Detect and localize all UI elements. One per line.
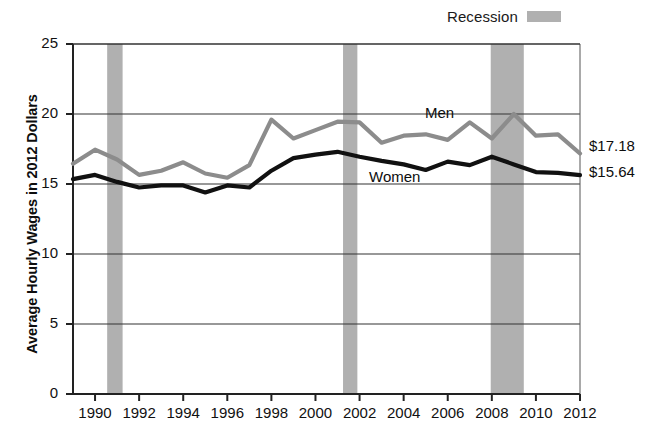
x-tick-label-2012: 2012 — [557, 404, 603, 421]
x-tick-label-1998: 1998 — [248, 404, 294, 421]
x-tick-label-2004: 2004 — [381, 404, 427, 421]
y-tick-label-0: 0 — [28, 384, 58, 401]
recession-band-2 — [491, 44, 524, 394]
x-tick-label-2000: 2000 — [292, 404, 338, 421]
x-tick-label-2010: 2010 — [513, 404, 559, 421]
y-tick-label-15: 15 — [28, 174, 58, 191]
series-label-men: Men — [425, 104, 454, 121]
legend-label-recession: Recession — [447, 8, 518, 25]
x-tick-label-1992: 1992 — [116, 404, 162, 421]
y-tick-label-5: 5 — [28, 314, 58, 331]
x-tick-label-2006: 2006 — [425, 404, 471, 421]
x-tick-label-2002: 2002 — [337, 404, 383, 421]
plot-area — [0, 0, 653, 434]
y-tick-label-25: 25 — [28, 34, 58, 51]
legend-swatch-recession — [527, 11, 561, 22]
x-tick-label-1990: 1990 — [72, 404, 118, 421]
end-value-men: $17.18 — [589, 137, 635, 154]
recession-bands — [107, 44, 524, 394]
series-label-women: Women — [369, 168, 420, 185]
end-value-women: $15.64 — [589, 163, 635, 180]
wage-chart: Recession Average Hourly Wages in 2012 D… — [0, 0, 653, 434]
y-tick-label-20: 20 — [28, 104, 58, 121]
y-tick-label-10: 10 — [28, 244, 58, 261]
x-tick-label-1994: 1994 — [160, 404, 206, 421]
recession-band-0 — [107, 44, 122, 394]
x-tick-label-2008: 2008 — [469, 404, 515, 421]
legend: Recession — [447, 8, 561, 25]
recession-band-1 — [343, 44, 357, 394]
x-tick-label-1996: 1996 — [204, 404, 250, 421]
